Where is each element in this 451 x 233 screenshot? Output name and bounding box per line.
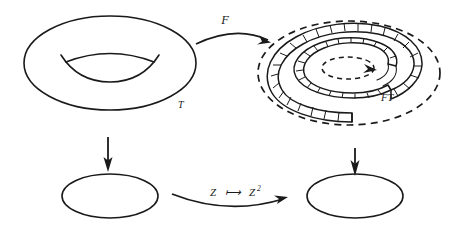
arrow-z-squared-mapsto-icon: ⟼ [225,186,242,198]
node-base-left [62,174,158,218]
commutative-diagram: T F [0,0,451,233]
torus-label: T [178,99,185,110]
spiral-ribbon-inner-band [294,38,397,98]
spiral-ribbon-inner-tip [377,64,396,86]
arrow-F-line [196,33,268,44]
torus-outer-outline [24,16,196,110]
base-circle-left-outline [62,174,158,218]
arrow-projection-right [351,148,360,176]
arrow-z-squared-target-label: Z [249,186,256,198]
arrow-z-squared-exponent: 2 [257,184,261,193]
torus-hole-upper-arc [66,54,154,63]
base-circle-right-outline [307,174,403,218]
spiral-core-arrowhead [363,64,377,73]
arrow-F-label: F [220,13,229,27]
node-base-right [307,174,403,218]
figure-root: T F [0,0,451,233]
arrow-z-squared: Z^2 --> Z ⟼ Z 2 [172,184,288,206]
spiral-ribbon-group [267,23,422,122]
arrow-F: F [196,13,271,45]
arrow-projection-left [104,137,113,172]
arrow-z-squared-source-label: Z [210,186,217,198]
spiral-core-dashed-ellipse [322,57,374,79]
node-spiral: FT [258,21,440,125]
arrow-z-squared-head [274,196,288,205]
node-torus: T [24,16,196,110]
spiral-label: FT [380,92,394,103]
